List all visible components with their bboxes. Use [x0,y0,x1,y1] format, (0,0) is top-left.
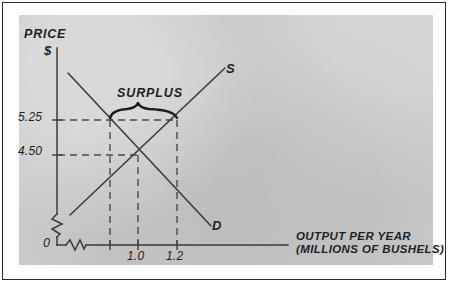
supply-curve-label: S [226,62,235,76]
surplus-annotation-label: SURPLUS [117,87,183,101]
figure-gray-plate [19,15,433,265]
x-axis-title-line1: OUTPUT PER YEAR [296,230,444,243]
y-axis-title: PRICE [24,28,66,42]
x-axis-title: OUTPUT PER YEAR (MILLIONS OF BUSHELS) [296,230,444,255]
x-tick-label-12: 1.2 [166,250,183,263]
y-tick-label-525: 5.25 [18,111,42,124]
x-tick-label-10: 1.0 [127,250,144,263]
x-axis-title-line2: (MILLIONS OF BUSHELS) [296,243,444,256]
y-tick-label-450: 4.50 [18,145,42,158]
y-axis-unit-label: $ [44,44,51,58]
origin-label: 0 [43,237,50,251]
demand-curve-label: D [212,219,222,233]
